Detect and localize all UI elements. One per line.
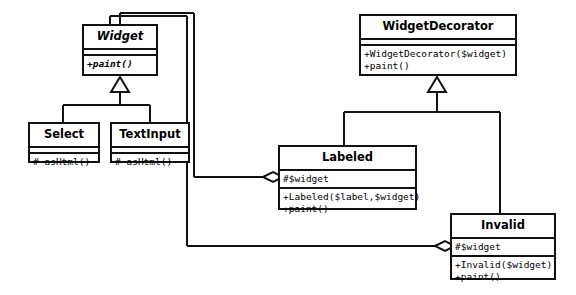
generalization-select-textinput-to-widget <box>63 77 150 122</box>
method-row: +paint() <box>455 271 551 283</box>
method-row: +paint() <box>283 203 412 215</box>
class-box-labeled[interactable]: Labeled #$widget +Labeled($label,$widget… <box>278 145 417 210</box>
attribute-row: #$widget <box>455 241 551 253</box>
method-row: # asHtml() <box>33 156 95 168</box>
hollow-triangle-icon <box>428 77 446 92</box>
class-methods-widgetdecorator: +WidgetDecorator($widget) +paint() <box>361 46 515 74</box>
class-methods-textinput: # asHtml() <box>112 154 188 170</box>
class-attributes-labeled: #$widget <box>280 171 415 187</box>
attribute-row: #$widget <box>283 173 412 185</box>
hollow-triangle-icon <box>111 77 129 92</box>
class-box-widget[interactable]: Widget +paint() <box>82 24 158 76</box>
class-methods-labeled: +Labeled($label,$widget) +paint() <box>280 189 415 217</box>
method-row: +Invalid($widget) <box>455 259 551 271</box>
class-name-widget: Widget <box>84 26 156 48</box>
class-methods-select: # asHtml() <box>30 154 98 170</box>
method-row: +Labeled($label,$widget) <box>283 191 412 203</box>
class-name-textinput: TextInput <box>112 124 188 146</box>
class-name-select: Select <box>30 124 98 146</box>
uml-diagram-canvas: Widget ===== --> Widget (long bottom rou… <box>0 0 576 295</box>
aggregation-labeled-to-widget <box>194 172 283 182</box>
class-name-invalid: Invalid <box>452 215 554 237</box>
method-row: +WidgetDecorator($widget) <box>364 48 512 60</box>
class-name-widgetdecorator: WidgetDecorator <box>361 16 515 38</box>
class-methods-widget: +paint() <box>84 56 156 72</box>
class-methods-invalid: +Invalid($widget) +paint() <box>452 257 554 285</box>
method-row: # asHtml() <box>115 156 185 168</box>
method-row: +paint() <box>364 60 512 72</box>
class-name-labeled: Labeled <box>280 147 415 169</box>
class-box-widgetdecorator[interactable]: WidgetDecorator +WidgetDecorator($widget… <box>359 14 517 76</box>
method-row: +paint() <box>87 58 153 70</box>
class-box-invalid[interactable]: Invalid #$widget +Invalid($widget) +pain… <box>450 213 556 280</box>
class-attributes-invalid: #$widget <box>452 239 554 255</box>
class-box-textinput[interactable]: TextInput # asHtml() <box>110 122 190 163</box>
class-box-select[interactable]: Select # asHtml() <box>28 122 100 163</box>
